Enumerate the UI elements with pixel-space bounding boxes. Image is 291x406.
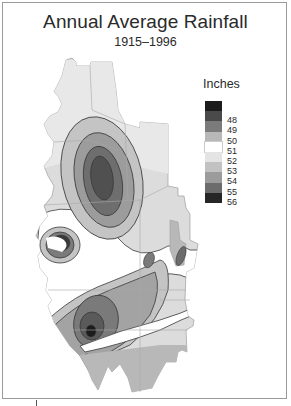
bay-low-contours	[40, 227, 80, 263]
rainfall-contour-map	[0, 0, 291, 406]
legend-swatch	[205, 183, 222, 193]
legend-swatch	[205, 193, 222, 203]
legend-swatch	[205, 121, 222, 131]
legend-swatch	[205, 111, 222, 121]
legend-title: Inches	[203, 77, 240, 91]
legend-swatch	[205, 152, 222, 162]
legend-swatch	[205, 101, 222, 111]
contour-south-57	[86, 325, 96, 337]
bottom-tick-mark	[36, 400, 37, 406]
legend-swatch	[205, 132, 222, 142]
legend-swatch	[205, 162, 222, 172]
legend-swatch	[205, 142, 222, 152]
legend-swatch	[205, 172, 222, 182]
